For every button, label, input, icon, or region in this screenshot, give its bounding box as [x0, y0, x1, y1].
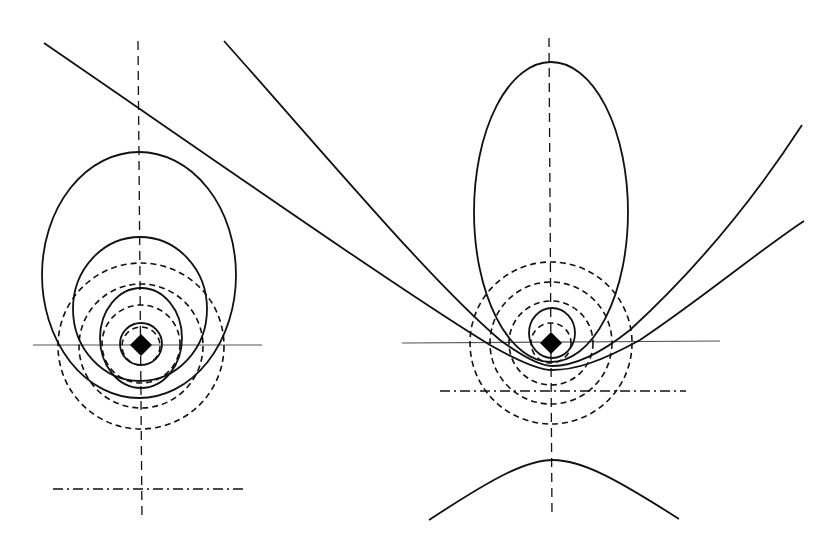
diagram-canvas — [0, 0, 828, 548]
background — [0, 0, 828, 548]
conic-sections-diagram — [0, 0, 828, 548]
